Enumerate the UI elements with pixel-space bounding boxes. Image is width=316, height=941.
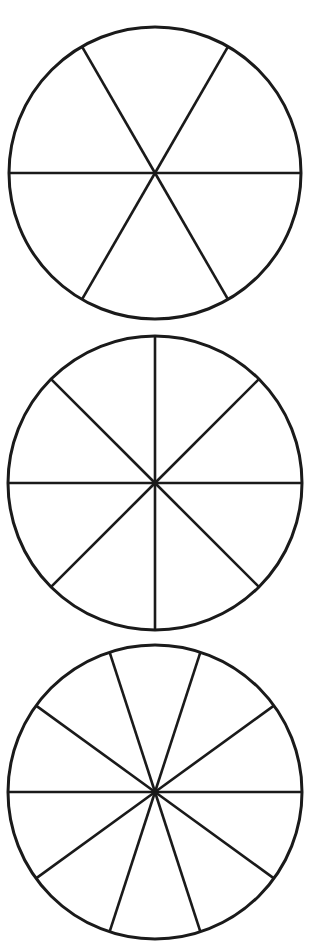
sector-divider-line	[155, 792, 274, 878]
sector-divider-line	[110, 792, 155, 932]
sector-divider-line	[82, 47, 155, 173]
circle-10-sections	[8, 645, 302, 939]
sector-divider-line	[36, 792, 155, 878]
circle-8-sections	[8, 336, 302, 630]
sector-divider-line	[155, 47, 228, 173]
sector-divider-line	[51, 483, 155, 587]
sector-divider-line	[155, 652, 200, 792]
sector-divider-line	[82, 173, 155, 299]
sector-divider-line	[110, 652, 155, 792]
sector-divider-line	[155, 706, 274, 792]
sector-divider-line	[155, 792, 200, 932]
fraction-circles-diagram	[0, 0, 316, 941]
sector-divider-line	[155, 173, 228, 299]
sector-divider-line	[36, 706, 155, 792]
circle-6-sections	[9, 27, 301, 319]
sector-divider-line	[155, 379, 259, 483]
sector-divider-line	[155, 483, 259, 587]
sector-divider-line	[51, 379, 155, 483]
